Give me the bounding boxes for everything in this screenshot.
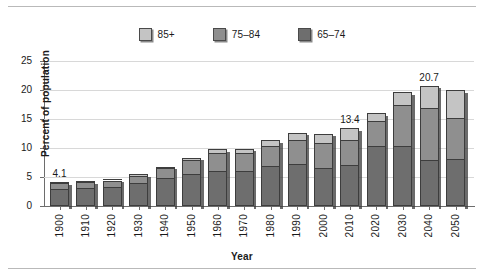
x-tick-mark — [139, 206, 140, 210]
x-tick-label: 1930 — [133, 214, 145, 237]
bar-group — [182, 61, 201, 206]
x-tick-mark — [86, 206, 87, 210]
bar-group — [156, 61, 175, 206]
bar-segment — [103, 187, 122, 206]
bar-segment — [340, 128, 359, 140]
y-tick-label: 25 — [6, 55, 32, 66]
x-tick-label: 1990 — [291, 214, 303, 237]
bar-segment — [235, 171, 254, 206]
x-tick-mark — [324, 206, 325, 210]
bar-segment — [182, 174, 201, 206]
bar-group — [288, 61, 307, 206]
bar-segment — [261, 146, 280, 166]
bar-segment — [446, 159, 465, 206]
bar-shadow — [439, 88, 442, 208]
bar-group — [103, 61, 122, 206]
x-tick-label: 2030 — [397, 214, 409, 237]
x-tick-label: 1910 — [80, 214, 92, 237]
plot-area: 0510152025Percent of population4.113.420… — [44, 61, 474, 206]
bottom-divider — [8, 268, 476, 269]
bar-segment — [50, 182, 69, 183]
x-tick-label: 1970 — [238, 214, 250, 237]
bar-segment — [156, 168, 175, 178]
x-tick-label: 1950 — [186, 214, 198, 237]
bar-shadow — [95, 184, 98, 209]
x-tick-label: 2010 — [344, 214, 356, 237]
y-tick-label: 15 — [6, 113, 32, 124]
bar-shadow — [175, 169, 178, 208]
bar-segment — [261, 140, 280, 146]
bar-shadow — [227, 152, 230, 209]
bar-segment — [261, 166, 280, 206]
bar-segment — [50, 183, 69, 188]
x-tick-mark — [60, 206, 61, 210]
bar-segment — [76, 188, 95, 206]
bar-shadow — [148, 177, 151, 209]
bar-shadow — [307, 135, 310, 208]
y-tick-label: 10 — [6, 142, 32, 153]
x-tick-mark — [271, 206, 272, 210]
bar-group — [129, 61, 148, 206]
bar-segment — [367, 113, 386, 121]
x-tick-mark — [376, 206, 377, 210]
bar-group — [261, 61, 280, 206]
bar-segment — [235, 149, 254, 154]
bar-segment — [129, 174, 148, 176]
legend-item: 65–74 — [298, 28, 345, 41]
bar-shadow — [254, 151, 257, 208]
legend-label: 65–74 — [317, 29, 345, 40]
legend-swatch-icon — [139, 28, 152, 41]
bar-group — [208, 61, 227, 206]
bar-segment — [393, 146, 412, 206]
x-tick-mark — [112, 206, 113, 210]
x-tick-mark — [429, 206, 430, 210]
x-tick-label: 2050 — [450, 214, 462, 237]
x-tick-label: 1900 — [54, 214, 66, 237]
x-tick-label: 2020 — [370, 214, 382, 237]
x-tick-mark — [192, 206, 193, 210]
bar-segment — [208, 153, 227, 171]
x-tick-label: 1940 — [159, 214, 171, 237]
bar-group: 13.4 — [340, 61, 359, 206]
x-tick-mark — [350, 206, 351, 210]
bar-shadow — [69, 185, 72, 209]
bar-group: 4.1 — [50, 61, 69, 206]
bar-segment — [208, 149, 227, 152]
bar-segment — [76, 181, 95, 182]
chart-legend: 85+75–8465–74 — [0, 25, 484, 43]
bar-segment — [420, 160, 439, 206]
y-tick-label: 0 — [6, 200, 32, 211]
bar-segment — [367, 121, 386, 146]
bar-value-label: 13.4 — [330, 114, 370, 125]
bar-shadow — [465, 93, 468, 209]
x-tick-mark — [218, 206, 219, 210]
bar-shadow — [386, 116, 389, 209]
bar-segment — [76, 182, 95, 188]
bar-value-label: 20.7 — [409, 72, 449, 83]
bar-segment — [129, 183, 148, 206]
legend-item: 85+ — [139, 28, 175, 41]
bar-segment — [50, 189, 69, 206]
bar-group — [367, 61, 386, 206]
x-tick-label: 1960 — [212, 214, 224, 237]
bar-segment — [446, 90, 465, 118]
x-tick-label: 2000 — [318, 214, 330, 237]
bar-segment — [314, 134, 333, 143]
bar-segment — [340, 165, 359, 206]
x-tick-label: 1980 — [265, 214, 277, 237]
bar-segment — [288, 164, 307, 206]
x-tick-mark — [456, 206, 457, 210]
legend-label: 75–84 — [232, 29, 260, 40]
top-divider — [8, 6, 476, 7]
bar-group — [446, 61, 465, 206]
bar-segment — [103, 179, 122, 180]
legend-label: 85+ — [158, 29, 175, 40]
y-tick-label: 5 — [6, 171, 32, 182]
bar-segment — [314, 168, 333, 206]
bar-segment — [156, 167, 175, 169]
bar-value-label: 4.1 — [40, 168, 80, 179]
bar-segment — [288, 133, 307, 141]
bar-group — [235, 61, 254, 206]
bar-segment — [103, 181, 122, 187]
bar-shadow — [280, 143, 283, 209]
